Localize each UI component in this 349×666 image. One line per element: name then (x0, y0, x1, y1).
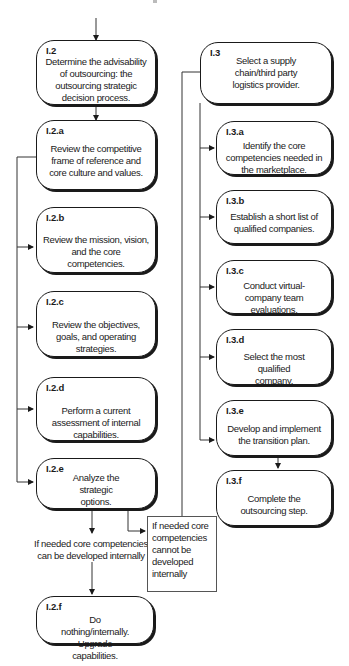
node-i2b: I.2.b Review the mission, vision, and th… (36, 207, 156, 273)
node-i2e: I.2.e Analyze the strategic options. (36, 458, 156, 509)
node-id: I.2.e (46, 463, 64, 474)
condition-external: If needed core competencies cannot be de… (147, 516, 217, 592)
node-text: Determine the advisability of outsourcin… (43, 56, 149, 104)
node-id: I.2.a (46, 125, 64, 136)
node-text: Select a supply chain/third party logist… (229, 55, 303, 91)
node-text: Develop and implement the transition pla… (225, 423, 323, 447)
node-text: Analyze the strategic options. (65, 472, 127, 508)
node-text: Do nothing/internally. Upgrade capabilit… (55, 614, 135, 662)
node-i3a: I.3.a Identify the core competencies nee… (216, 121, 332, 175)
node-id: I.2.b (46, 212, 64, 223)
node-i3f: I.3.f Complete the outsourcing step. (216, 470, 332, 526)
node-text: Complete the outsourcing step. (239, 493, 309, 517)
node-id: I.3.d (226, 334, 244, 345)
node-id: I.2.d (46, 382, 64, 393)
node-i3b: I.3.b Establish a short list of qualifie… (216, 190, 332, 244)
node-text: Perform a current assessment of internal… (43, 405, 149, 441)
node-text: Identify the core competencies needed in… (219, 140, 329, 176)
node-text: Select the most qualified company. (241, 351, 307, 387)
node-id: I.2 (46, 45, 56, 56)
node-i2: I.2 Determine the advisability of outsou… (36, 40, 156, 105)
condition-internal: If needed core competencies can be devel… (30, 538, 152, 562)
node-id: I.3.b (226, 195, 244, 206)
node-text: Review the objectives, goals, and operat… (43, 319, 149, 355)
node-i2c: I.2.c Review the objectives, goals, and … (36, 291, 156, 357)
node-id: I.3.f (226, 475, 241, 486)
node-i2f: I.2.f Do nothing/internally. Upgrade cap… (36, 596, 154, 644)
node-id: I.2.f (46, 601, 61, 612)
node-i3c: I.3.c Conduct virtual-company team evalu… (216, 260, 332, 314)
node-i2a: I.2.a Review the competitive frame of re… (36, 120, 156, 190)
node-text: Conduct virtual-company team evaluations… (227, 280, 321, 316)
node-id: I.2.c (46, 296, 64, 307)
node-text: Establish a short list of qualified comp… (229, 211, 319, 235)
node-id: I.3.e (226, 405, 244, 416)
node-id: I.3.c (226, 265, 244, 276)
node-i2d: I.2.d Perform a current assessment of in… (36, 377, 156, 441)
node-text: Review the competitive frame of referenc… (43, 143, 149, 179)
node-id: I.3 (210, 47, 220, 58)
node-i3d: I.3.d Select the most qualified company. (216, 329, 332, 385)
node-i3e: I.3.e Develop and implement the transiti… (216, 400, 332, 456)
flowchart-canvas: I.2 Determine the advisability of outsou… (0, 0, 349, 666)
node-id: I.3.a (226, 126, 244, 137)
node-i3: I.3 Select a supply chain/third party lo… (200, 42, 332, 104)
node-text: Review the mission, vision, and the core… (43, 234, 149, 270)
